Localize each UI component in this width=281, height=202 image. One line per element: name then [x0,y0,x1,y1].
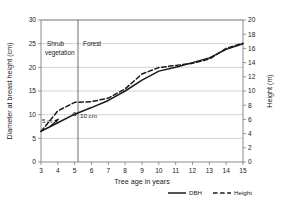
right-tick-label: 14 [248,59,256,66]
x-tick-label: 10 [155,167,163,174]
left-tick-label: 20 [29,64,37,71]
right-tick-label: 2 [248,144,252,151]
x-tick-label: 12 [189,167,197,174]
tree-growth-chart: 0 5 10 15 20 25 30 0 2 4 6 [0,0,281,202]
zone-label-shrub-line2: vegetation [45,49,75,57]
legend-label-dbh: DBH [189,189,202,196]
left-tick-label: 0 [32,158,36,165]
right-tick-label: 12 [248,73,256,80]
x-tick-label: 9 [140,167,144,174]
x-tick-label: 15 [239,167,247,174]
right-tick-label: 10 [248,87,256,94]
left-tick-label: 30 [29,16,37,23]
left-tick-label: 10 [29,111,37,118]
right-tick-label: 20 [248,16,256,23]
x-tick-label: 7 [106,167,110,174]
zone-label-forest: Forest [83,40,101,47]
x-tick-label: 8 [123,167,127,174]
right-tick-label: 6 [248,116,252,123]
x-tick-label: 13 [206,167,214,174]
chart-figure: 0 5 10 15 20 25 30 0 2 4 6 [0,0,281,202]
right-tick-label: 18 [248,31,256,38]
left-axis-title: Diameter at breast height (cm) [5,42,14,139]
annotation-10cm-label: 10 cm [80,112,97,119]
right-tick-label: 0 [248,158,252,165]
zone-label-shrub-line1: Shrub [47,40,64,47]
annotation-5m-label: 5 m [42,117,52,124]
x-tick-label: 3 [39,167,43,174]
right-axis-tick-labels: 0 2 4 6 8 10 12 14 16 18 20 [248,16,256,165]
left-axis-ticks [38,20,41,162]
x-axis-tick-labels: 3 4 5 6 7 8 9 10 11 12 13 14 15 [39,167,247,174]
left-tick-label: 25 [29,40,37,47]
x-tick-label: 11 [172,167,179,174]
right-tick-label: 4 [248,130,252,137]
x-tick-label: 4 [56,167,60,174]
right-axis-ticks [243,20,246,162]
left-tick-label: 5 [32,135,36,142]
legend-label-height: Height [234,189,252,196]
legend-item-height: Height [213,189,252,196]
x-tick-label: 14 [222,167,230,174]
legend-item-dbh: DBH [168,189,202,196]
x-tick-label: 5 [73,167,77,174]
right-axis-title: Height (m) [265,74,274,108]
x-axis-ticks [41,162,243,165]
x-axis-title: Tree age in years [114,177,170,186]
left-axis-tick-labels: 0 5 10 15 20 25 30 [29,16,37,165]
right-tick-label: 8 [248,102,252,109]
chart-legend: DBH Height [168,189,252,196]
x-tick-label: 6 [90,167,94,174]
right-tick-label: 16 [248,45,256,52]
left-tick-label: 15 [29,87,37,94]
